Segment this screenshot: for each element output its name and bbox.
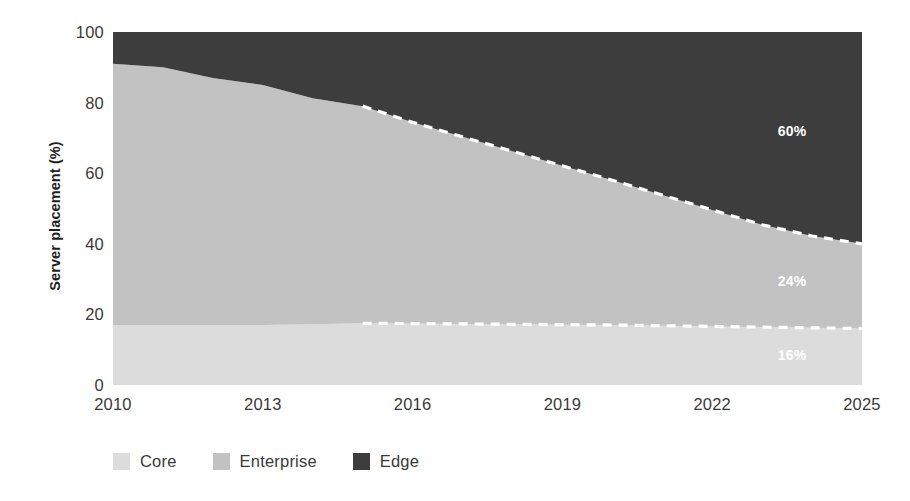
- legend-swatch-edge-icon: [353, 453, 370, 470]
- y-tick-label-80: 80: [0, 93, 104, 112]
- x-tick-label-2010: 2010: [94, 395, 132, 414]
- legend-item-core[interactable]: Core: [113, 452, 177, 471]
- enterprise-value-label: 24%: [778, 273, 807, 289]
- x-tick-label-2025: 2025: [843, 395, 881, 414]
- x-tick-label-2022: 2022: [693, 395, 731, 414]
- x-tick-label-2019: 2019: [544, 395, 582, 414]
- legend-label-core: Core: [140, 452, 177, 471]
- x-tick-label-2016: 2016: [394, 395, 432, 414]
- y-tick-label-60: 60: [0, 164, 104, 183]
- legend-label-enterprise: Enterprise: [240, 452, 317, 471]
- y-tick-label-40: 40: [0, 234, 104, 253]
- x-axis-tick-labels: 201020132016201920222025: [0, 395, 910, 425]
- legend-item-enterprise[interactable]: Enterprise: [213, 452, 317, 471]
- area-band-core: [113, 323, 862, 385]
- legend-item-edge[interactable]: Edge: [353, 452, 419, 471]
- x-tick-label-2013: 2013: [244, 395, 282, 414]
- y-tick-label-20: 20: [0, 305, 104, 324]
- legend-label-edge: Edge: [380, 452, 419, 471]
- y-tick-label-100: 100: [0, 23, 104, 42]
- core-value-label: 16%: [778, 347, 807, 363]
- legend-swatch-core-icon: [113, 453, 130, 470]
- chart-legend: CoreEnterpriseEdge: [113, 452, 455, 471]
- legend-swatch-enterprise-icon: [213, 453, 230, 470]
- chart-figure: Server placement (%) 020406080100 201020…: [0, 0, 910, 501]
- y-axis-tick-labels: 020406080100: [0, 0, 104, 501]
- y-tick-label-0: 0: [0, 376, 104, 395]
- edge-value-label: 60%: [778, 123, 807, 139]
- area-bands: [113, 32, 862, 385]
- stacked-area-plot: [113, 32, 862, 385]
- plot-area: [113, 32, 862, 385]
